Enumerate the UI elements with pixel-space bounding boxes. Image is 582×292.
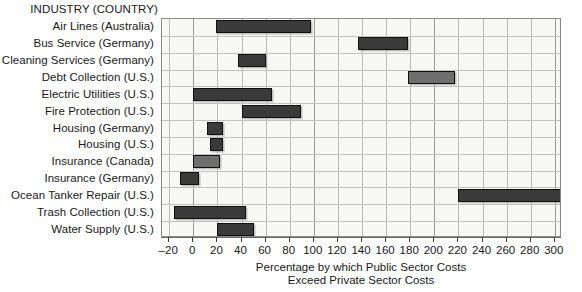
category-label: Cleaning Services (Germany) xyxy=(2,52,154,68)
bar-debt-collection-u-s xyxy=(408,71,455,84)
gridline-horizontal xyxy=(162,53,560,54)
bar-trash-collection-u-s xyxy=(174,206,246,219)
x-axis-tick-label: 280 xyxy=(520,244,539,256)
x-axis-tick-label: 60 xyxy=(258,244,271,256)
bar-housing-germany xyxy=(207,122,224,135)
x-axis-tick xyxy=(216,237,217,242)
x-axis-tick xyxy=(554,237,555,242)
x-axis-tick-label: 220 xyxy=(448,244,467,256)
bar-air-lines-australia xyxy=(216,20,311,33)
x-axis-tick-label: 40 xyxy=(234,244,247,256)
x-axis-tick-label: 20 xyxy=(210,244,223,256)
x-axis-title-line2: Exceed Private Sector Costs xyxy=(161,274,561,287)
category-label: Water Supply (U.S.) xyxy=(51,221,154,237)
x-axis-tick-label: 200 xyxy=(424,244,443,256)
x-axis-tick-label: 120 xyxy=(327,244,346,256)
x-axis-tick-label: 180 xyxy=(400,244,419,256)
gridline-horizontal xyxy=(162,103,560,104)
bar-fire-protection-u-s xyxy=(242,105,301,118)
x-axis-tick-label: 300 xyxy=(544,244,563,256)
gridline-horizontal xyxy=(162,154,560,155)
x-axis-tick-label: 240 xyxy=(472,244,491,256)
category-label: Electric Utilities (U.S.) xyxy=(42,86,154,102)
bar-ocean-tanker-repair-u-s xyxy=(458,189,561,202)
bar-housing-u-s xyxy=(210,138,223,151)
x-axis-tick xyxy=(530,237,531,242)
gridline-horizontal xyxy=(162,171,560,172)
y-axis-header-label: INDUSTRY (COUNTRY) xyxy=(0,3,158,15)
bar-insurance-canada xyxy=(193,155,220,168)
bar-insurance-germany xyxy=(180,172,199,185)
category-label: Trash Collection (U.S.) xyxy=(37,204,154,220)
plot-area xyxy=(161,18,561,237)
x-axis-tick xyxy=(506,237,507,242)
x-axis-tick xyxy=(313,237,314,242)
bar-cleaning-services-germany xyxy=(238,54,266,67)
chart-container: INDUSTRY (COUNTRY) Air Lines (Australia)… xyxy=(0,0,582,292)
x-axis-tick xyxy=(361,237,362,242)
category-label: Housing (Germany) xyxy=(53,120,154,136)
x-axis-tick xyxy=(433,237,434,242)
x-axis-title: Percentage by which Public Sector Costs … xyxy=(161,261,561,287)
gridline-horizontal xyxy=(162,70,560,71)
x-axis-tick-label: 140 xyxy=(351,244,370,256)
category-label: Bus Service (Germany) xyxy=(33,35,154,51)
x-axis-tick xyxy=(241,237,242,242)
x-axis-tick-label: 100 xyxy=(303,244,322,256)
x-axis-title-line1: Percentage by which Public Sector Costs xyxy=(161,261,561,274)
x-axis-tick-label: 260 xyxy=(496,244,515,256)
x-axis-tick xyxy=(337,237,338,242)
x-axis-tick xyxy=(289,237,290,242)
category-label: Insurance (Germany) xyxy=(44,170,154,186)
x-axis-tick-label: 80 xyxy=(282,244,295,256)
category-label: Fire Protection (U.S.) xyxy=(45,103,154,119)
category-label: Ocean Tanker Repair (U.S.) xyxy=(11,187,154,203)
x-axis-tick-label: –20 xyxy=(159,244,178,256)
x-axis-tick-label: 0 xyxy=(189,244,195,256)
x-axis-tick-label: 160 xyxy=(376,244,395,256)
bar-water-supply-u-s xyxy=(217,223,253,236)
x-axis-tick xyxy=(385,237,386,242)
x-axis-tick xyxy=(482,237,483,242)
x-axis-tick xyxy=(265,237,266,242)
x-axis-tick xyxy=(192,237,193,242)
bar-electric-utilities-u-s xyxy=(193,88,271,101)
category-label-column: Air Lines (Australia)Bus Service (German… xyxy=(0,18,158,237)
category-label: Housing (U.S.) xyxy=(78,136,154,152)
category-label: Debt Collection (U.S.) xyxy=(42,69,154,85)
category-label: Insurance (Canada) xyxy=(51,153,154,169)
bar-bus-service-germany xyxy=(358,37,407,50)
x-axis-tick xyxy=(168,237,169,242)
category-label: Air Lines (Australia) xyxy=(53,18,154,34)
x-axis-tick xyxy=(409,237,410,242)
x-axis-tick xyxy=(457,237,458,242)
